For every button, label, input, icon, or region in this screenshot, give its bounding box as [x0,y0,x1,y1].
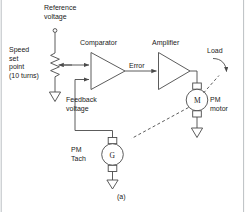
motor-tach-shaft [132,108,189,139]
error-label: Error [129,62,145,71]
amplifier-block [159,53,191,90]
motor-symbol: M [194,96,201,105]
ground-symbol-potentiometer [49,92,60,102]
ground-symbol-motor [191,128,202,138]
motor-bottom-brush [193,111,202,117]
comparator-block [91,53,125,90]
reference-voltage-label: Reference voltage [44,4,76,21]
ground-symbol-tach [107,180,118,189]
motor-load-shaft [204,76,220,94]
tach-bottom-brush [108,165,117,171]
tach-symbol: G [110,151,115,160]
comparator-label: Comparator [80,39,117,48]
figure-caption: (a) [117,193,126,200]
tach-top-brush [108,138,117,144]
circuit-diagram [0,0,245,212]
reference-voltage-terminal [53,29,57,33]
pm-motor-label: PM motor [210,96,228,113]
speed-set-point-label: Speed set point (10 turns) [9,46,39,80]
load-label: Load [207,47,223,56]
pm-tach-label: PM Tach [71,146,86,163]
load-rotation-arrow [213,59,227,72]
potentiometer-resistor [51,53,60,77]
figure-container: Reference voltage Speed set point (10 tu… [0,0,245,212]
amplifier-to-motor-wire [190,71,197,83]
amplifier-label: Amplifier [152,39,179,48]
feedback-voltage-label: Feedback voltage [66,96,97,113]
motor-top-brush [193,83,202,89]
